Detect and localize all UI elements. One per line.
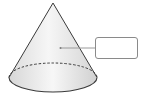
answer-label-box[interactable] bbox=[95, 37, 138, 59]
pointer-dot-icon bbox=[60, 47, 62, 49]
